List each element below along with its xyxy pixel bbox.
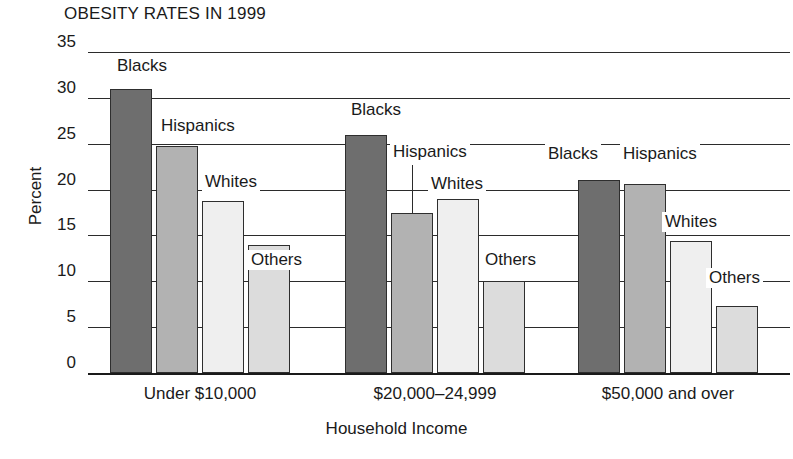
bar-label-hispanics-group-0: Hispanics	[158, 116, 238, 136]
bar-blacks-group-1[interactable]	[345, 135, 387, 373]
y-tick-label-5: 5	[34, 307, 76, 327]
bar-label-whites-group-1: Whites	[428, 174, 486, 194]
bar-others-group-1[interactable]	[483, 281, 525, 373]
y-tick-label-30: 30	[34, 78, 76, 98]
y-tick-label-35: 35	[34, 32, 76, 52]
bar-hispanics-group-2[interactable]	[624, 184, 666, 373]
leader-line-hispanics-group-1	[412, 165, 413, 213]
y-tick-label-10: 10	[34, 261, 76, 281]
gridline-30	[88, 98, 790, 99]
x-axis-group-label-0: Under $10,000	[110, 384, 290, 404]
obesity-rates-bar-chart: OBESITY RATES IN 1999 Percent 0510152025…	[0, 0, 793, 459]
y-tick-label-15: 15	[34, 215, 76, 235]
x-axis-group-label-1: $20,000–24,999	[345, 384, 525, 404]
x-axis-group-label-2: $50,000 and over	[578, 384, 758, 404]
y-tick-label-0: 0	[34, 353, 76, 373]
bar-label-blacks-group-0: Blacks	[114, 56, 170, 76]
bar-whites-group-1[interactable]	[437, 199, 479, 373]
gridline-35	[88, 52, 790, 53]
bar-label-others-group-1: Others	[482, 250, 539, 270]
bar-label-whites-group-0: Whites	[202, 172, 260, 192]
y-tick-label-20: 20	[34, 170, 76, 190]
bar-others-group-2[interactable]	[716, 306, 758, 373]
chart-title: OBESITY RATES IN 1999	[64, 4, 266, 24]
bar-blacks-group-2[interactable]	[578, 180, 620, 373]
bar-whites-group-2[interactable]	[670, 241, 712, 373]
bar-whites-group-0[interactable]	[202, 201, 244, 373]
bar-label-blacks-group-1: Blacks	[348, 100, 404, 120]
bar-label-blacks-group-2: Blacks	[545, 144, 601, 164]
x-axis-title: Household Income	[0, 419, 793, 439]
gridline-0	[88, 373, 790, 375]
y-tick-label-25: 25	[34, 124, 76, 144]
bar-label-whites-group-2: Whites	[662, 212, 720, 232]
bar-label-others-group-0: Others	[248, 250, 305, 270]
bar-label-others-group-2: Others	[706, 268, 763, 288]
bar-label-hispanics-group-2: Hispanics	[620, 144, 700, 164]
bar-blacks-group-0[interactable]	[110, 89, 152, 373]
bar-hispanics-group-1[interactable]	[391, 213, 433, 374]
bar-hispanics-group-0[interactable]	[156, 146, 198, 373]
bar-label-hispanics-group-1: Hispanics	[390, 142, 470, 162]
